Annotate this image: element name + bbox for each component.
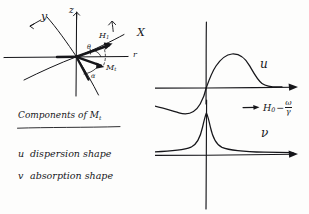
absorption-y-axis bbox=[206, 100, 207, 209]
legend-text-u: dispersion shape bbox=[30, 148, 111, 159]
handwritten-notes-page: y z X r H1 Mt θ α Components of Mt udisp… bbox=[0, 0, 309, 214]
caption-underline-canvas bbox=[16, 124, 136, 132]
h1-vector-arrowhead bbox=[104, 43, 113, 50]
angle-arc-upper bbox=[95, 51, 101, 57]
z-axis-line bbox=[76, 12, 77, 96]
dispersion-x-axis bbox=[155, 87, 294, 88]
mt-vector-label: Mt bbox=[106, 64, 116, 73]
abscissa-fraction: ωγ bbox=[285, 99, 291, 116]
caption-underline bbox=[18, 127, 121, 129]
angle-upper-label: θ bbox=[87, 44, 91, 51]
caption-prefix: Components of bbox=[18, 110, 90, 120]
abscissa-label-arrowhead bbox=[253, 105, 259, 110]
legend-symbol-u: u bbox=[18, 148, 30, 159]
y-axis-arrowhead bbox=[30, 24, 34, 29]
h1-vector-label: H1 bbox=[99, 32, 109, 41]
y-axis-label: y bbox=[41, 11, 47, 22]
z-axis-arrowhead bbox=[73, 12, 79, 19]
legend-item-dispersion: udispersion shape bbox=[18, 148, 111, 159]
absorption-x-axis bbox=[155, 154, 294, 156]
legend-text-v: absorption shape bbox=[30, 170, 113, 181]
absorption-curve-label: ν bbox=[261, 127, 268, 139]
vector-diagram-canvas bbox=[0, 0, 155, 100]
r-axis-label: r bbox=[133, 51, 137, 59]
x-axis-arrow-shaft bbox=[112, 22, 113, 32]
abscissa-fraction-denominator: γ bbox=[285, 107, 291, 116]
abscissa-minus: − bbox=[275, 102, 285, 113]
legend-item-absorption: vabsorption shape bbox=[18, 170, 113, 181]
z-axis-label: z bbox=[69, 6, 74, 15]
mt-vector-arrowhead bbox=[96, 62, 104, 68]
caption-symbol: M bbox=[90, 110, 99, 120]
caption-title: Components of Mt bbox=[18, 111, 101, 121]
dispersion-x-axis-arrowhead bbox=[289, 84, 298, 91]
dispersion-curve-label: u bbox=[260, 58, 268, 70]
abscissa-label: H0−ωγ bbox=[263, 99, 292, 116]
dispersion-curve-left bbox=[155, 88, 206, 114]
caption-subscript: t bbox=[99, 114, 101, 121]
abscissa-fraction-numerator: ω bbox=[285, 99, 291, 107]
absorption-x-axis-arrowhead bbox=[289, 151, 298, 158]
x-axis-label: X bbox=[137, 27, 145, 38]
absorption-curve bbox=[155, 113, 293, 154]
h1-vector-shaft bbox=[76, 45, 109, 57]
legend-symbol-v: v bbox=[18, 170, 30, 181]
angle-lower-label: α bbox=[91, 73, 95, 80]
dispersion-curve-right bbox=[206, 54, 282, 88]
